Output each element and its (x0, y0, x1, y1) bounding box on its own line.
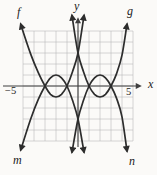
graph-canvas (0, 0, 157, 175)
curve-label-n: n (129, 155, 135, 167)
curve-label-f: f (17, 6, 20, 18)
curve-g (72, 16, 127, 97)
x-axis-label: x (148, 78, 153, 90)
y-axis-label: y (74, 0, 79, 12)
curve-label-m: m (13, 154, 22, 166)
graph-figure: f g m n y x −5 5 (0, 0, 157, 175)
curve-label-g: g (127, 5, 133, 17)
x-tick-label-pos5: 5 (126, 87, 131, 98)
x-tick-label-neg5: −5 (5, 86, 16, 97)
